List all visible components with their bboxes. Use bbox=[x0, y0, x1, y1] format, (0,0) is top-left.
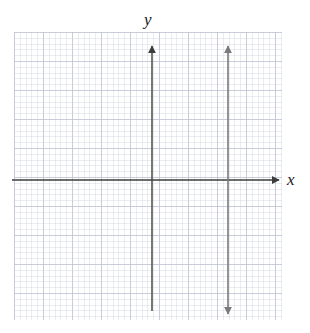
y-axis-label: y bbox=[144, 11, 152, 28]
graph-figure: y x bbox=[0, 0, 310, 333]
x-axis-label: x bbox=[287, 171, 295, 188]
axes-and-plot-layer bbox=[0, 0, 310, 333]
